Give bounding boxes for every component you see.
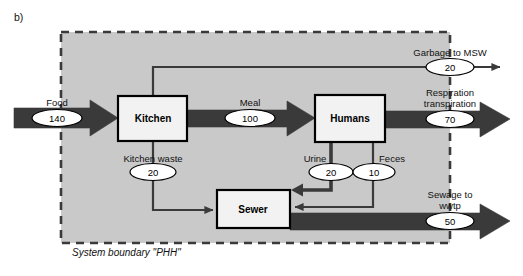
flow-value-meal: 100 — [242, 113, 258, 124]
flow-label-food: Food — [46, 97, 68, 108]
flow-label-sewage-line2: wwtp — [439, 200, 461, 211]
flow-label-kitchen-waste: Kitchen waste — [123, 153, 182, 164]
process-label-sewer: Sewer — [238, 204, 267, 215]
flow-value-respiration: 70 — [445, 114, 456, 125]
flow-value-garbage: 20 — [445, 62, 456, 73]
flow-value-food: 140 — [49, 113, 65, 124]
system-boundary-caption: System boundary "PHH" — [72, 247, 181, 258]
flow-label-sewage-line1: Sewage to — [428, 189, 473, 200]
material-flow-diagram: b) Kitchen Humans Sewer Food Meal Respir… — [0, 0, 523, 276]
flow-value-feces: 10 — [369, 167, 380, 178]
diagram-canvas — [0, 0, 523, 276]
flow-label-urine: Urine — [304, 153, 327, 164]
flow-value-sewage: 50 — [445, 216, 456, 227]
flow-label-meal: Meal — [240, 97, 261, 108]
panel-letter: b) — [14, 11, 23, 23]
flow-label-respiration-line2: transpiration — [424, 98, 476, 109]
flow-label-feces: Feces — [379, 153, 405, 164]
flow-value-kitchen-waste: 20 — [148, 167, 159, 178]
flow-label-garbage-to-msw: Garbage to MSW — [413, 47, 486, 58]
flow-label-respiration-line1: Respiration — [426, 87, 474, 98]
process-label-humans: Humans — [330, 113, 369, 124]
flow-value-urine: 20 — [326, 167, 337, 178]
process-label-kitchen: Kitchen — [135, 113, 172, 124]
